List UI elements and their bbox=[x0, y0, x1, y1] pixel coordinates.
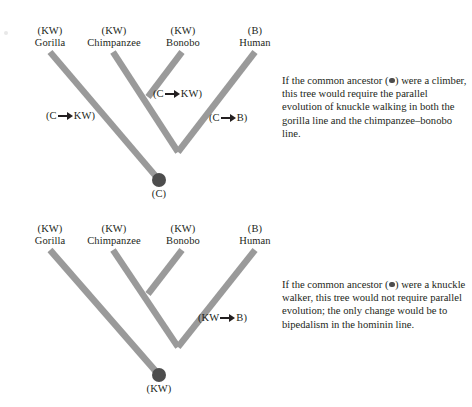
branch-label-human-change-bottom: (KW B) bbox=[198, 312, 247, 324]
tip-state-gorilla-bottom: (KW) bbox=[20, 223, 80, 235]
branch-gorilla-bottom bbox=[50, 250, 159, 375]
branch-human-bottom bbox=[178, 250, 255, 347]
root-node-bottom bbox=[152, 368, 166, 382]
branch-bonobo-bottom bbox=[148, 250, 182, 294]
root-label-bottom: (KW) bbox=[133, 383, 185, 395]
tip-label-gorilla-bottom: (KW) Gorilla bbox=[20, 223, 80, 246]
tip-label-chimpanzee-bottom: (KW) Chimpanzee bbox=[76, 223, 152, 246]
right-arrow-icon bbox=[220, 313, 235, 322]
tip-label-bonobo-bottom: (KW) Bonobo bbox=[152, 223, 214, 246]
tip-label-human-bottom: (B) Human bbox=[224, 223, 286, 246]
branch-label-text-human-bottom: (KW bbox=[198, 312, 219, 324]
tip-state-chimpanzee-bottom: (KW) bbox=[76, 223, 152, 235]
tip-taxon-human-bottom: Human bbox=[224, 235, 286, 247]
ancestor-dot-icon bbox=[389, 282, 395, 288]
tip-state-human-bottom: (B) bbox=[224, 223, 286, 235]
phylogeny-figure: (KW) Gorilla (KW) Chimpanzee (KW) Bonobo… bbox=[0, 0, 472, 407]
bottom-tree-branches bbox=[0, 0, 472, 407]
tip-taxon-gorilla-bottom: Gorilla bbox=[20, 235, 80, 247]
caption-bottom: If the common ancestor () were a knuckle… bbox=[282, 278, 468, 331]
branch-label-target-human-bottom: B) bbox=[236, 312, 247, 324]
tip-state-bonobo-bottom: (KW) bbox=[152, 223, 214, 235]
tip-taxon-chimpanzee-bottom: Chimpanzee bbox=[76, 235, 152, 247]
tip-taxon-bonobo-bottom: Bonobo bbox=[152, 235, 214, 247]
caption-bottom-before: If the common ancestor ( bbox=[282, 279, 389, 290]
